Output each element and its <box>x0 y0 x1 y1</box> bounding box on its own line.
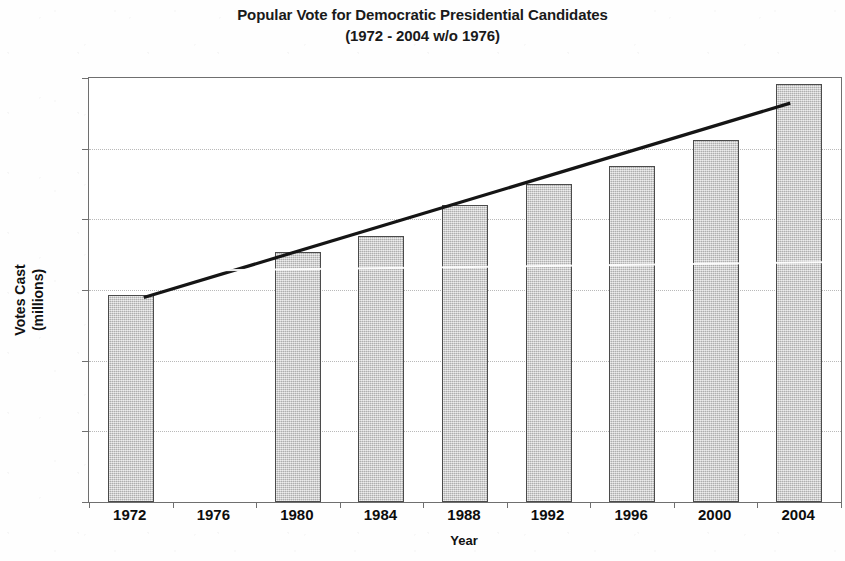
x-axis-tick-label: 1992 <box>505 506 591 523</box>
chart-figure: Popular Vote for Democratic Presidential… <box>0 0 845 561</box>
y-axis-title-line2: (millions) <box>29 264 47 335</box>
x-axis-tick-label: 2000 <box>672 506 758 523</box>
y-axis-tick-mark <box>82 502 89 503</box>
bar <box>275 252 321 502</box>
y-axis-tick-mark <box>82 431 89 432</box>
x-axis-title: Year <box>88 533 840 548</box>
chart-title: Popular Vote for Democratic Presidential… <box>0 4 845 46</box>
y-axis-title-line1: Votes Cast <box>11 264 29 335</box>
x-axis-tick-label: 2004 <box>755 506 841 523</box>
y-axis-tick-mark <box>82 361 89 362</box>
y-axis-tick-mark <box>82 290 89 291</box>
bar <box>526 184 572 502</box>
x-axis-tick-label: 1972 <box>87 506 173 523</box>
x-axis-tick-label: 1988 <box>421 506 507 523</box>
bar <box>108 295 154 502</box>
bar <box>358 236 404 502</box>
y-axis-tick-mark <box>82 219 89 220</box>
bar <box>442 205 488 502</box>
bar <box>776 84 822 502</box>
x-axis-tick-label: 1980 <box>254 506 340 523</box>
y-axis-tick-mark <box>82 149 89 150</box>
bar <box>609 166 655 502</box>
y-axis-tick-mark <box>82 78 89 79</box>
x-axis-tick-label: 1984 <box>337 506 423 523</box>
chart-title-line2: (1972 - 2004 w/o 1976) <box>0 25 845 46</box>
x-axis-tick-label: 1976 <box>170 506 256 523</box>
plot-area <box>88 77 842 503</box>
x-axis-tick-label: 1996 <box>588 506 674 523</box>
y-axis-title: Votes Cast (millions) <box>2 200 56 400</box>
bar <box>693 140 739 502</box>
chart-title-line1: Popular Vote for Democratic Presidential… <box>237 6 608 23</box>
